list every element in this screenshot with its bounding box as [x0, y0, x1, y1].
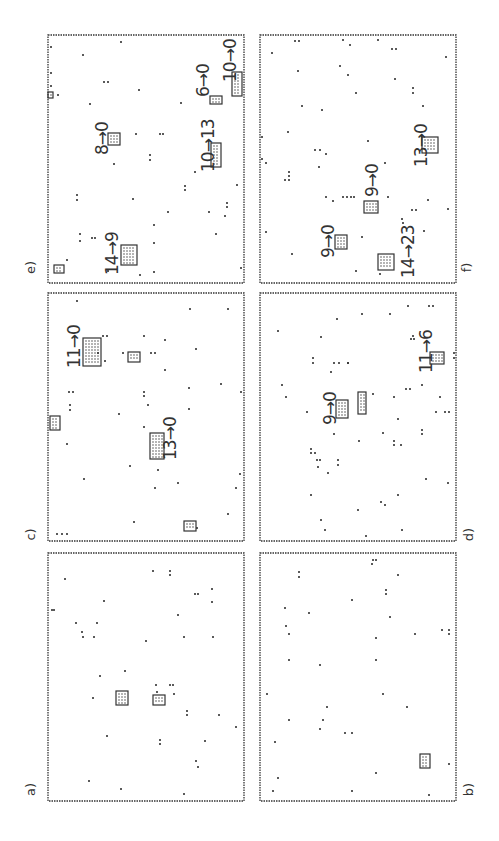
- particle-dot: [326, 706, 328, 708]
- particle-dot: [319, 728, 321, 730]
- particle-dot: [284, 607, 286, 609]
- particle-dot: [344, 732, 346, 734]
- particle-dot: [288, 633, 290, 635]
- cluster: [420, 754, 430, 768]
- particle-dot: [298, 576, 300, 578]
- particle-dot: [385, 589, 387, 591]
- particle-dot: [375, 637, 377, 639]
- particle-dot: [414, 633, 416, 635]
- particle-dot: [375, 772, 377, 774]
- particle-dot: [288, 659, 290, 661]
- particle-dot: [441, 629, 443, 631]
- particle-dot: [298, 571, 300, 573]
- particle-dot: [385, 593, 387, 595]
- panel-b: [0, 0, 499, 841]
- particle-dot: [308, 612, 310, 614]
- particle-dot: [375, 559, 377, 561]
- particle-dot: [277, 777, 279, 779]
- panel-label-b: b): [461, 783, 476, 796]
- particle-dot: [397, 574, 399, 576]
- panel-border: [260, 553, 456, 801]
- particle-dot: [428, 794, 430, 796]
- particle-dot: [371, 563, 373, 565]
- particle-dot: [288, 719, 290, 721]
- particle-dot: [406, 706, 408, 708]
- particle-dot: [319, 664, 321, 666]
- particle-dot: [285, 625, 287, 627]
- particle-dot: [272, 790, 274, 792]
- particle-dot: [351, 599, 353, 601]
- particle-dot: [448, 633, 450, 635]
- particle-dot: [274, 741, 276, 743]
- particle-dot: [351, 732, 353, 734]
- particle-dot: [372, 559, 374, 561]
- particle-dot: [448, 629, 450, 631]
- particle-dot: [266, 693, 268, 695]
- particle-dot: [351, 790, 353, 792]
- particle-dot: [322, 719, 324, 721]
- particle-dot: [375, 659, 377, 661]
- particle-dot: [448, 763, 450, 765]
- particle-dot: [389, 616, 391, 618]
- particle-dot: [382, 693, 384, 695]
